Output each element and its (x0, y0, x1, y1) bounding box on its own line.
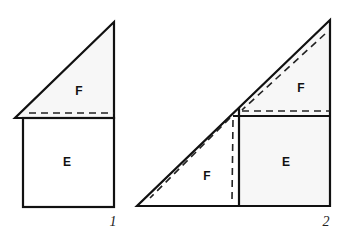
figure-2: F E F 2 (137, 20, 330, 229)
figure-2-number: 2 (323, 214, 330, 229)
figure-1-label-f: F (75, 84, 82, 98)
figure-2-label-e: E (282, 155, 290, 169)
diagram-canvas: F E 1 F E F 2 (0, 0, 339, 235)
figure-1-number: 1 (110, 214, 117, 229)
figure-2-label-f-bottom: F (203, 169, 210, 183)
figure-2-left-hyp-dash (150, 118, 230, 198)
figure-1-label-e: E (63, 155, 71, 169)
figure-1: F E 1 (15, 22, 117, 229)
figure-2-label-f-top: F (297, 81, 304, 95)
figure-2-left-vertical-dash (232, 120, 233, 200)
